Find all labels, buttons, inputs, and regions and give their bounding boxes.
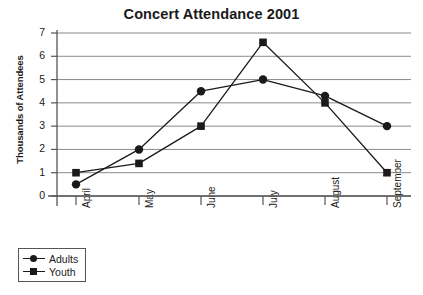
series-line-adults — [76, 80, 387, 185]
data-point-adults-july — [259, 75, 267, 83]
data-point-adults-september — [383, 122, 391, 130]
legend-line-sample-adults — [23, 253, 45, 265]
legend-item-adults: Adults — [23, 252, 78, 265]
data-point-adults-august — [321, 92, 329, 100]
legend-label-adults: Adults — [45, 253, 78, 265]
data-point-adults-june — [197, 87, 205, 95]
data-point-youth-august — [321, 99, 329, 107]
data-point-adults-may — [135, 145, 143, 153]
data-point-youth-june — [197, 122, 205, 130]
data-point-youth-april — [72, 169, 80, 177]
data-point-youth-may — [135, 160, 143, 168]
legend-line-sample-youth — [23, 266, 45, 278]
legend-label-youth: Youth — [45, 266, 75, 278]
data-point-youth-september — [383, 169, 391, 177]
series-line-youth — [76, 42, 387, 172]
chart-legend: Adults Youth — [18, 248, 86, 282]
data-point-adults-april — [72, 180, 80, 188]
data-point-youth-july — [259, 39, 267, 47]
concert-attendance-chart: Concert Attendance 2001 Thousands of Att… — [0, 0, 423, 295]
circle-marker-icon — [30, 255, 37, 262]
legend-item-youth: Youth — [23, 265, 78, 278]
square-marker-icon — [30, 268, 37, 275]
